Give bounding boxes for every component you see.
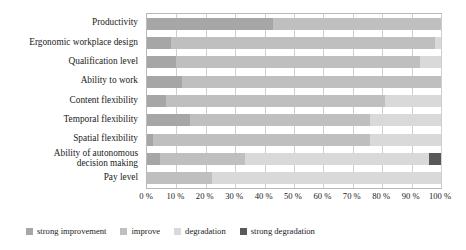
legend-swatch-icon bbox=[120, 228, 127, 235]
bar-segment[interactable] bbox=[147, 114, 190, 126]
legend-item[interactable]: strong degradation bbox=[240, 226, 315, 236]
bar-segment[interactable] bbox=[147, 56, 176, 68]
x-axis-tick-label: 100 % bbox=[429, 191, 451, 202]
x-axis-tick-label: 70 % bbox=[343, 191, 361, 202]
y-axis-label: Pay level bbox=[0, 172, 142, 183]
stacked-bar-chart: ProductivityErgonomic workplace designQu… bbox=[0, 0, 466, 250]
bar-rows bbox=[147, 14, 441, 188]
legend-swatch-icon bbox=[26, 228, 33, 235]
y-axis-label: Ergonomic workplace design bbox=[0, 37, 142, 48]
bar-segment[interactable] bbox=[182, 76, 441, 88]
y-axis-label: Ability of autonomousdecision making bbox=[0, 148, 142, 169]
stacked-bar[interactable] bbox=[147, 153, 441, 165]
legend-item[interactable]: degradation bbox=[174, 226, 226, 236]
y-axis-labels: ProductivityErgonomic workplace designQu… bbox=[0, 13, 142, 189]
bar-row bbox=[147, 53, 441, 72]
bar-segment[interactable] bbox=[212, 172, 441, 184]
y-axis-label: Temporal flexibility bbox=[0, 114, 142, 125]
bar-row bbox=[147, 14, 441, 33]
y-axis-label: Content flexibility bbox=[0, 95, 142, 106]
bar-segment[interactable] bbox=[147, 172, 212, 184]
bar-segment[interactable] bbox=[429, 153, 441, 165]
x-axis-tick-label: 40 % bbox=[255, 191, 273, 202]
bar-segment[interactable] bbox=[176, 56, 420, 68]
plot-area bbox=[146, 13, 442, 189]
y-axis-label: Spatial flexibility bbox=[0, 133, 142, 144]
stacked-bar[interactable] bbox=[147, 134, 441, 146]
bar-segment[interactable] bbox=[370, 114, 441, 126]
legend-item[interactable]: strong improvement bbox=[26, 226, 106, 236]
stacked-bar[interactable] bbox=[147, 172, 441, 184]
legend-swatch-icon bbox=[240, 228, 247, 235]
x-axis-tick-label: 50 % bbox=[284, 191, 302, 202]
bar-segment[interactable] bbox=[147, 37, 171, 49]
chart-legend: strong improvementimprovedegradationstro… bbox=[26, 226, 315, 236]
stacked-bar[interactable] bbox=[147, 95, 441, 107]
bar-segment[interactable] bbox=[190, 114, 371, 126]
legend-label: degradation bbox=[185, 226, 226, 236]
bar-segment[interactable] bbox=[147, 76, 182, 88]
bar-row bbox=[147, 91, 441, 110]
legend-label: strong degradation bbox=[251, 226, 315, 236]
bar-row bbox=[147, 169, 441, 188]
bar-segment[interactable] bbox=[273, 18, 441, 30]
gridline bbox=[441, 14, 442, 188]
bar-segment[interactable] bbox=[245, 153, 429, 165]
x-axis-tick-label: 90 % bbox=[402, 191, 420, 202]
bar-segment[interactable] bbox=[160, 153, 245, 165]
stacked-bar[interactable] bbox=[147, 18, 441, 30]
bar-segment[interactable] bbox=[153, 134, 371, 146]
legend-label: strong improvement bbox=[37, 226, 106, 236]
bar-segment[interactable] bbox=[435, 37, 441, 49]
stacked-bar[interactable] bbox=[147, 56, 441, 68]
x-axis-tick-label: 10 % bbox=[166, 191, 184, 202]
x-axis-tick-label: 0 % bbox=[139, 191, 153, 202]
y-axis-label: Ability to work bbox=[0, 75, 142, 86]
bar-row bbox=[147, 149, 441, 168]
stacked-bar[interactable] bbox=[147, 114, 441, 126]
y-axis-label: Qualification level bbox=[0, 56, 142, 67]
bar-row bbox=[147, 72, 441, 91]
stacked-bar[interactable] bbox=[147, 76, 441, 88]
x-axis-tick-label: 80 % bbox=[372, 191, 390, 202]
x-axis-tick-label: 60 % bbox=[313, 191, 331, 202]
bar-segment[interactable] bbox=[385, 95, 441, 107]
bar-row bbox=[147, 111, 441, 130]
legend-item[interactable]: improve bbox=[120, 226, 160, 236]
bar-row bbox=[147, 130, 441, 149]
y-axis-label: Productivity bbox=[0, 17, 142, 28]
bar-segment[interactable] bbox=[420, 56, 441, 68]
x-axis-labels: 0 %10 %20 %30 %40 %50 %60 %70 %80 %90 %1… bbox=[146, 191, 442, 205]
bar-segment[interactable] bbox=[147, 95, 166, 107]
bar-segment[interactable] bbox=[147, 153, 160, 165]
stacked-bar[interactable] bbox=[147, 37, 441, 49]
bar-row bbox=[147, 33, 441, 52]
x-axis-tick-label: 30 % bbox=[225, 191, 243, 202]
legend-label: improve bbox=[131, 226, 160, 236]
x-axis-tick-label: 20 % bbox=[196, 191, 214, 202]
bar-segment[interactable] bbox=[370, 134, 441, 146]
legend-swatch-icon bbox=[174, 228, 181, 235]
bar-segment[interactable] bbox=[171, 37, 436, 49]
bar-segment[interactable] bbox=[166, 95, 385, 107]
bar-segment[interactable] bbox=[147, 18, 273, 30]
